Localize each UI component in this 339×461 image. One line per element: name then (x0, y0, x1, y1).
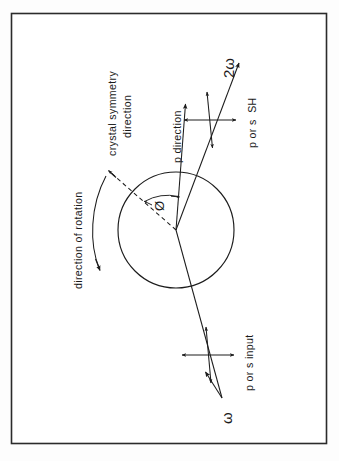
output-beam-symbol: 2ω (220, 58, 237, 78)
crystal-symmetry-label-line1: crystal symmetry (106, 71, 118, 156)
direction-of-rotation-label: direction of rotation (72, 192, 84, 289)
input-polarization-label: p or s input (243, 334, 255, 391)
figure-root: 2ω p or s SH ω p or s input crystal symm… (0, 0, 339, 461)
diagram-canvas: 2ω p or s SH ω p or s input crystal symm… (0, 0, 339, 461)
phi-angle-label: Ø (152, 201, 167, 211)
p-direction-label: p direction (171, 110, 183, 163)
figure-border (12, 14, 327, 444)
crystal-symmetry-label-line2: direction (121, 95, 133, 138)
output-polarization-label: p or s SH (246, 97, 258, 148)
input-beam-symbol: ω (218, 412, 235, 424)
